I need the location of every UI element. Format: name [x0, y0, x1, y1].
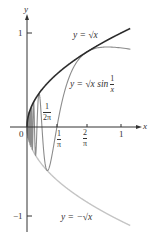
y-tick-label-neg1: −1	[13, 212, 23, 221]
frac-num: 1	[57, 130, 61, 138]
y-axis-label: y	[24, 5, 28, 14]
frac-num: 2	[83, 129, 87, 137]
frac-num: 1	[45, 103, 49, 111]
x-tick-label-1-over-2pi: 12π	[43, 103, 51, 122]
origin-label: 0	[19, 130, 24, 139]
frac-den: 2π	[43, 114, 51, 122]
sqrt-curve-label: y = √x	[73, 31, 98, 41]
frac-den: x	[111, 86, 115, 94]
frac-den: π	[57, 141, 61, 149]
frac-num: 1	[110, 75, 114, 83]
x-tick-label-1-over-pi: 1π	[57, 130, 61, 149]
y-tick-label-1: 1	[18, 29, 23, 38]
x-tick-label-2-over-pi: 2π	[83, 129, 87, 148]
x-tick-label-1: 1	[119, 130, 124, 139]
neg-sqrt-curve-label: y = −√x	[61, 213, 92, 223]
sin-label-prefix: y = √x sin	[70, 80, 108, 90]
frac-den: π	[83, 140, 87, 148]
sin-label-frac: 1x	[110, 75, 114, 94]
x-axis-arrow	[136, 125, 142, 129]
x-axis-label: x	[143, 122, 147, 131]
sin-curve-label: y = √x sin 1x	[70, 75, 114, 94]
y-axis-arrow	[25, 14, 29, 20]
